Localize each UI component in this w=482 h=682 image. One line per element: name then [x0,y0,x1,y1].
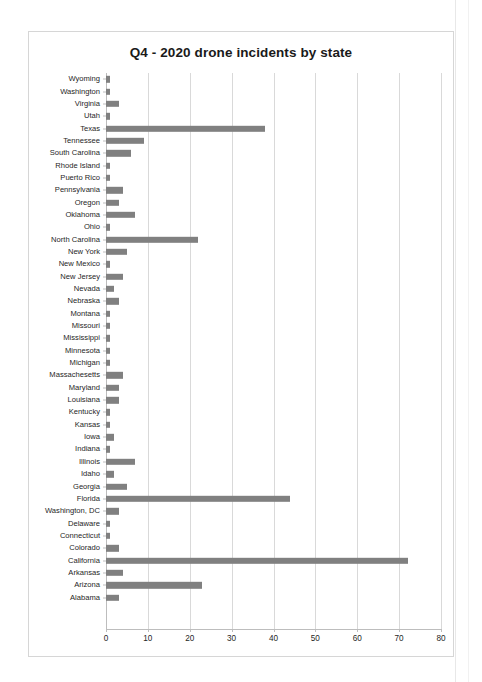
page-edge-left [455,0,456,682]
x-tick-mark [106,629,107,632]
bar [106,236,198,242]
bar-row: Kansas [106,419,441,431]
bar-row: Oregon [106,196,441,208]
bar-row: Missouri [106,320,441,332]
gridline-80 [441,73,442,629]
category-label: Montana [70,310,100,318]
category-label: Minnesota [65,347,100,355]
bar-row: Connecticut [106,530,441,542]
x-tick-mark [315,629,316,632]
bar [106,311,110,317]
category-label: Kentucky [69,409,100,417]
category-label: New Jersey [60,273,100,281]
bar-row: Tennessee [106,135,441,147]
category-label: Colorado [69,544,100,552]
x-tick-label: 60 [353,634,362,643]
bar-row: Georgia [106,480,441,492]
bar-row: Indiana [106,443,441,455]
category-label: Puerto Rico [60,174,100,182]
bar [106,335,110,341]
category-label: Delaware [68,520,100,528]
x-tick-label: 30 [227,634,236,643]
category-label: Missouri [72,322,100,330]
category-label: Arizona [74,581,100,589]
bar-row: Delaware [106,517,441,529]
bar-row: Nevada [106,283,441,295]
category-label: Nevada [74,285,100,293]
bar-row: Oklahoma [106,209,441,221]
category-label: Washington, DC [45,507,100,515]
category-label: Michigan [70,359,100,367]
bar-row: Colorado [106,542,441,554]
bar-row: Idaho [106,468,441,480]
category-label: Connecticut [60,532,100,540]
bar [106,372,123,378]
category-label: Arkansas [68,569,100,577]
category-label: Texas [80,125,100,133]
bar-row: Pennsylvania [106,184,441,196]
bar [106,88,110,94]
page-edge-right [468,0,469,682]
bar [106,101,119,107]
x-tick-label: 0 [104,634,109,643]
category-label: Pennsylvania [55,186,100,194]
bar-row: Washington, DC [106,505,441,517]
x-tick-label: 80 [436,634,445,643]
bar-row: Wyoming [106,73,441,85]
category-label: Idaho [81,470,100,478]
category-label: California [68,557,100,565]
category-label: Virginia [75,100,100,108]
bar [106,582,202,588]
category-label: Maryland [69,384,100,392]
bar-row: South Carolina [106,147,441,159]
bar-row: Texas [106,122,441,134]
bar-row: New Mexico [106,258,441,270]
x-tick-label: 50 [311,634,320,643]
bar-rows: WyomingWashingtonVirginiaUtahTexasTennes… [106,73,441,629]
bar-row: Michigan [106,357,441,369]
bar-row: Illinois [106,456,441,468]
bar [106,545,119,551]
x-tick-label: 40 [269,634,278,643]
category-label: North Carolina [51,236,100,244]
category-label: Mississippi [63,335,100,343]
chart-title: Q4 - 2020 drone incidents by state [29,45,453,60]
bar-row: California [106,554,441,566]
bar [106,508,119,514]
bar-row: North Carolina [106,233,441,245]
category-label: New York [68,248,100,256]
category-label: Utah [84,112,100,120]
category-label: Florida [77,495,100,503]
bar-row: New York [106,246,441,258]
bar-row: Maryland [106,382,441,394]
category-label: Rhode Island [55,162,100,170]
bar-row: Mississippi [106,332,441,344]
category-label: Oklahoma [65,211,100,219]
bar [106,360,110,366]
x-tick-mark [441,629,442,632]
bar [106,594,119,600]
bar-row: Utah [106,110,441,122]
bar [106,397,119,403]
category-label: South Carolina [50,149,100,157]
bar [106,323,110,329]
category-label: Wyoming [68,75,100,83]
bar [106,76,110,82]
category-label: Nebraska [68,298,101,306]
category-label: Oregon [75,199,100,207]
bar [106,150,131,156]
bar-row: Alabama [106,591,441,603]
category-label: Alabama [70,594,100,602]
bar-row: Kentucky [106,406,441,418]
category-label: Massachesetts [49,372,100,380]
bar [106,496,290,502]
bar [106,409,110,415]
bar [106,138,144,144]
bar [106,162,110,168]
bar [106,113,110,119]
bar [106,385,119,391]
bar-row: Minnesota [106,345,441,357]
bar-row: Virginia [106,98,441,110]
bar [106,422,110,428]
category-label: Illinois [79,458,100,466]
